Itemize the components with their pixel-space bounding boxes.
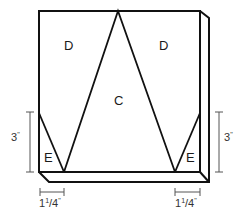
region-label-e-right: E — [186, 150, 195, 165]
cut-lines — [39, 11, 200, 172]
right-width-label: 11/4" — [175, 197, 197, 209]
right-height-dimension — [215, 112, 223, 172]
right-width-dimension — [175, 188, 200, 196]
region-label-d-right: D — [159, 38, 168, 53]
left-width-label: 11/4" — [39, 197, 61, 209]
center-triangle-c — [64, 11, 175, 172]
region-label-e-left: E — [44, 150, 53, 165]
right-height-label: 3" — [224, 131, 233, 143]
left-height-dimension — [26, 112, 34, 172]
region-label-c: C — [114, 93, 123, 108]
panel-diagram: D D C E E 3" 3" 11/4" 11/4" — [0, 0, 249, 216]
panel-depth — [39, 11, 209, 182]
left-width-dimension — [40, 188, 64, 196]
region-label-d-left: D — [64, 38, 73, 53]
left-height-label: 3" — [11, 131, 20, 143]
panel-front-face — [39, 11, 200, 172]
